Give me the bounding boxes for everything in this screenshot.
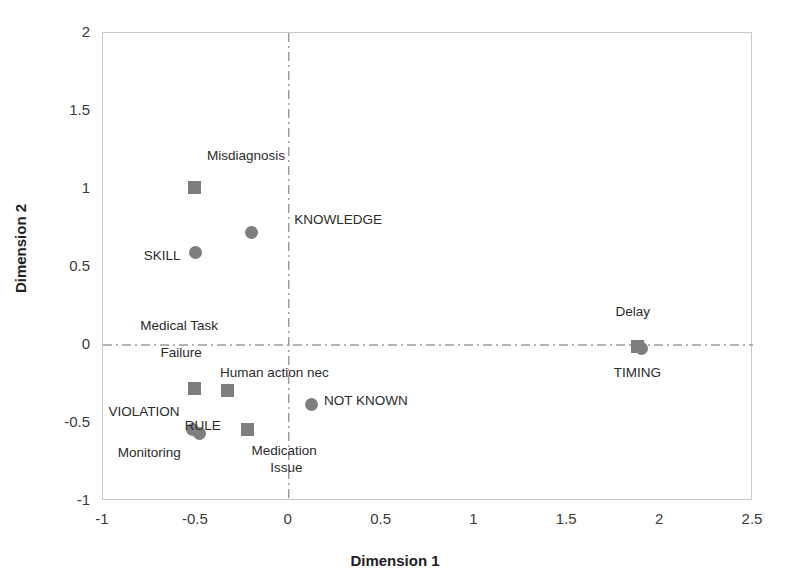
x-axis-title: Dimension 1	[0, 552, 790, 569]
point-label: Failure	[161, 345, 202, 361]
x-tick-label: 1	[443, 510, 503, 527]
point-label: KNOWLEDGE	[294, 212, 382, 228]
x-tick-label: 1.5	[536, 510, 596, 527]
point-label: SKILL	[144, 248, 181, 264]
data-point-marker	[305, 398, 318, 411]
x-tick-label: 0.5	[351, 510, 411, 527]
x-tick-label: -0.5	[165, 510, 225, 527]
data-point-marker	[188, 382, 201, 395]
y-tick-label: 0.5	[40, 257, 90, 274]
point-label: Issue	[270, 460, 302, 476]
y-tick-label: 0	[40, 335, 90, 352]
point-label: Medical Task	[140, 318, 218, 334]
x-tick-label: 2	[629, 510, 689, 527]
point-label: VIOLATION	[109, 404, 180, 420]
y-tick-label: 1.5	[40, 101, 90, 118]
plot-area: MisdiagnosisKNOWLEDGESKILLMedical TaskFa…	[102, 32, 752, 500]
point-label: Delay	[616, 304, 651, 320]
point-label: Human action nec	[220, 365, 329, 381]
scatter-plot-figure: Dimension 2 MisdiagnosisKNOWLEDGESKILLMe…	[0, 0, 790, 586]
point-label: TIMING	[614, 365, 661, 381]
point-label: RULE	[185, 418, 221, 434]
y-tick-label: 2	[40, 23, 90, 40]
data-point-marker	[188, 181, 201, 194]
data-point-marker	[241, 423, 254, 436]
x-tick-label: 2.5	[722, 510, 782, 527]
data-point-marker	[221, 384, 234, 397]
point-label: Monitoring	[118, 445, 181, 461]
y-tick-label: -1	[40, 491, 90, 508]
y-axis-title: Dimension 2	[12, 169, 29, 329]
y-tick-label: 1	[40, 179, 90, 196]
point-label: NOT KNOWN	[324, 393, 408, 409]
data-point-marker	[635, 342, 648, 355]
x-tick-label: 0	[258, 510, 318, 527]
x-tick-label: -1	[72, 510, 132, 527]
y-tick-label: -0.5	[40, 413, 90, 430]
point-label: Misdiagnosis	[207, 148, 285, 164]
point-label: Medication	[252, 443, 317, 459]
